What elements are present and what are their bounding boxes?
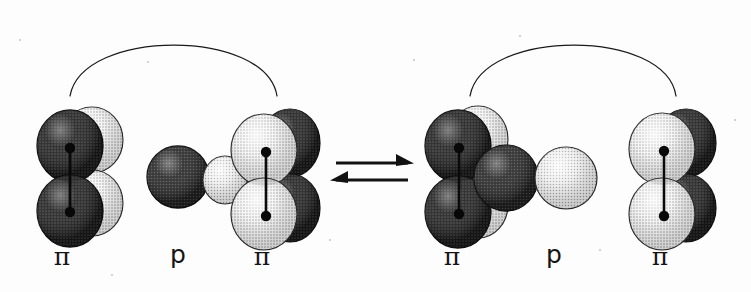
- pi2-nucleus-bottom: [261, 211, 271, 221]
- label-p-1: p: [158, 242, 198, 267]
- forward-arrow: [336, 154, 414, 166]
- label-pi-left-2: π: [432, 244, 472, 269]
- pi3-nucleus-top: [454, 143, 464, 153]
- label-pi-left-1: π: [42, 244, 82, 269]
- label-pi-right-2: π: [640, 244, 680, 269]
- pi-orbital-4: [629, 109, 716, 250]
- equilibrium-arrows: [330, 154, 414, 183]
- interaction-arc-left: [70, 45, 277, 96]
- pi3-nucleus-bottom: [454, 209, 464, 219]
- pi1-nucleus-bottom: [65, 207, 75, 217]
- pi-orbital-2: [203, 109, 320, 250]
- pi1-nucleus-top: [65, 143, 75, 153]
- pi-orbital-1: [37, 107, 123, 247]
- pi-orbital-3: [425, 106, 538, 248]
- scan-speckle: [19, 35, 736, 276]
- pi4-nucleus-top: [659, 146, 669, 156]
- pi4-nucleus-bottom: [659, 211, 669, 221]
- label-p-2: p: [534, 242, 574, 267]
- figure-canvas: π p π π p π: [0, 0, 751, 292]
- interaction-arc-right: [470, 45, 676, 96]
- left-structure: [37, 45, 320, 250]
- pi2-nucleus-top: [261, 147, 271, 157]
- label-pi-right-1: π: [242, 244, 282, 269]
- orbital-diagram-svg: [0, 0, 751, 292]
- reverse-arrow: [330, 171, 408, 183]
- p-orbital-2: [535, 147, 597, 209]
- p-orbital-1: [147, 146, 209, 208]
- right-structure: [425, 45, 716, 250]
